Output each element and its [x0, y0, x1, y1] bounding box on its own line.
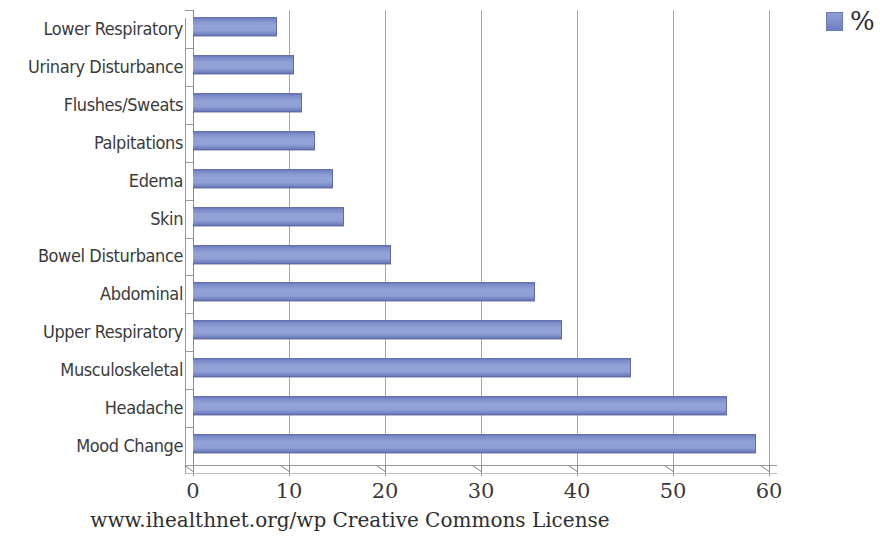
category-label: Skin — [13, 208, 193, 229]
bar-row — [193, 162, 769, 196]
bar[interactable] — [193, 245, 391, 264]
axis-floor-back-line — [185, 473, 777, 474]
category-tick — [185, 10, 193, 11]
bar[interactable] — [193, 93, 302, 112]
category-label: Palpitations — [13, 132, 193, 153]
category-label: Musculoskeletal — [13, 359, 193, 380]
bar-row — [193, 200, 769, 234]
bar[interactable] — [193, 169, 333, 188]
category-tick — [185, 389, 193, 390]
bar[interactable] — [193, 282, 535, 301]
category-label: Edema — [13, 170, 193, 191]
bar-row — [193, 389, 769, 423]
footer-credit: www.ihealthnet.org/wp Creative Commons L… — [0, 508, 880, 532]
value-tick-label: 20 — [372, 479, 399, 503]
bar-row — [193, 86, 769, 120]
bar-row — [193, 124, 769, 158]
bar-row — [193, 313, 769, 347]
gridline — [769, 10, 770, 465]
legend-swatch-icon — [826, 12, 843, 31]
category-tick — [185, 427, 193, 428]
legend: % — [826, 8, 875, 34]
bar[interactable] — [193, 320, 562, 339]
category-label: Abdominal — [13, 283, 193, 304]
category-axis-labels: Mood ChangeHeadacheMusculoskeletalUpper … — [0, 10, 193, 465]
category-label: Bowel Disturbance — [13, 245, 193, 266]
category-tick — [185, 275, 193, 276]
category-label: Upper Respiratory — [13, 321, 193, 342]
category-tick — [185, 200, 193, 201]
legend-label: % — [850, 8, 875, 34]
value-tick-label: 50 — [660, 479, 687, 503]
value-tick-label: 30 — [468, 479, 495, 503]
value-tick-label: 60 — [756, 479, 783, 503]
value-tick-label: 0 — [186, 479, 199, 503]
category-tick — [185, 351, 193, 352]
bar-row — [193, 238, 769, 272]
bar[interactable] — [193, 17, 277, 36]
category-tick — [185, 162, 193, 163]
bar-row — [193, 427, 769, 461]
bar-chart: Mood ChangeHeadacheMusculoskeletalUpper … — [0, 0, 880, 540]
bar[interactable] — [193, 131, 315, 150]
bar[interactable] — [193, 207, 344, 226]
bar-row — [193, 10, 769, 44]
category-tick — [185, 238, 193, 239]
category-label: Headache — [13, 397, 193, 418]
bar-row — [193, 275, 769, 309]
category-tick — [185, 313, 193, 314]
value-tick-label: 40 — [564, 479, 591, 503]
category-label: Urinary Disturbance — [13, 56, 193, 77]
bar-row — [193, 48, 769, 82]
category-label: Flushes/Sweats — [13, 94, 193, 115]
plot-area — [193, 10, 769, 465]
category-tick — [185, 86, 193, 87]
category-tick — [185, 124, 193, 125]
value-tick-label: 10 — [276, 479, 303, 503]
category-label: Mood Change — [13, 435, 193, 456]
bar-row — [193, 351, 769, 385]
bar[interactable] — [193, 358, 631, 377]
category-tick — [185, 48, 193, 49]
category-label: Lower Respiratory — [13, 18, 193, 39]
bar[interactable] — [193, 396, 727, 415]
bar[interactable] — [193, 434, 756, 453]
bar[interactable] — [193, 55, 294, 74]
